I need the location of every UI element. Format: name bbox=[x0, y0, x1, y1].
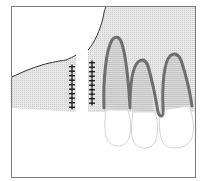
crown-2 bbox=[131, 112, 157, 148]
dental-diagram bbox=[0, 0, 202, 181]
diagram-svg bbox=[0, 0, 202, 181]
crown-1 bbox=[105, 110, 131, 146]
tooth-crowns bbox=[105, 106, 194, 148]
